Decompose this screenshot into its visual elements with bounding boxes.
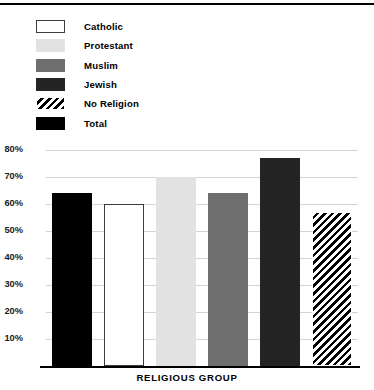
legend-item-label: Protestant [84,40,133,51]
total-swatch [36,117,65,130]
y-axis-tick-label: 20% [0,307,23,316]
no-religion-swatch [36,97,65,110]
legend-item-catholic[interactable]: Catholic [36,17,276,36]
bar-no-religion[interactable] [312,212,352,366]
bar-jewish[interactable] [260,158,300,366]
bars-group [46,136,358,366]
legend-item-muslim[interactable]: Muslim [36,56,276,75]
top-divider-rule [0,3,374,5]
muslim-swatch [36,59,65,72]
bar-muslim[interactable] [208,193,248,366]
x-axis-line [40,366,360,368]
legend-item-jewish[interactable]: Jewish [36,75,276,94]
bar-protestant[interactable] [156,177,196,366]
y-axis-tick-label: 70% [0,172,23,181]
chart-legend: CatholicProtestantMuslimJewishNo Religio… [36,17,276,133]
bar-catholic[interactable] [104,204,144,366]
legend-item-label: Muslim [84,60,118,71]
y-axis-tick-label: 40% [0,253,23,262]
y-axis-tick-label: 10% [0,334,23,343]
plot-area: 80%70%60%50%40%30%20%10% [46,136,358,366]
bar-total[interactable] [52,193,92,366]
legend-item-total[interactable]: Total [36,113,276,132]
legend-item-label: Total [84,118,107,129]
legend-item-label: No Religion [84,98,139,109]
legend-item-label: Jewish [84,79,117,90]
x-axis-title: RELIGIOUS GROUP [0,372,374,383]
catholic-swatch [36,20,65,33]
y-axis-tick-label: 50% [0,226,23,235]
legend-item-label: Catholic [84,21,123,32]
y-axis-tick-label: 30% [0,280,23,289]
jewish-swatch [36,78,65,91]
protestant-swatch [36,39,65,52]
y-axis-tick-label: 80% [0,145,23,154]
legend-item-no-religion[interactable]: No Religion [36,94,276,113]
legend-item-protestant[interactable]: Protestant [36,36,276,55]
chart-figure: CatholicProtestantMuslimJewishNo Religio… [0,0,374,390]
y-axis-tick-label: 60% [0,199,23,208]
